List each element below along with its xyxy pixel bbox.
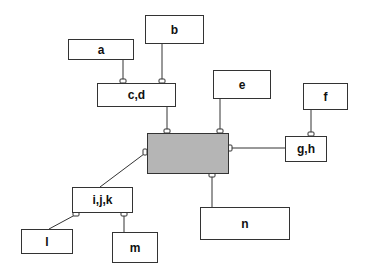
entity-label: m (130, 241, 141, 255)
entity-label: n (241, 217, 248, 231)
entity-cd: c,d (97, 83, 176, 107)
entity-label: e (239, 78, 246, 92)
entity-gh: g,h (285, 136, 327, 162)
entity-label: c,d (128, 88, 145, 102)
entity-label: i,j,k (92, 193, 112, 207)
entity-m: m (112, 232, 158, 263)
entity-n: n (200, 207, 290, 240)
entity-f: f (303, 83, 348, 110)
entity-a: a (68, 39, 134, 60)
entity-l: l (21, 229, 73, 254)
entity-label: l (45, 235, 48, 249)
entity-ijk: i,j,k (72, 187, 133, 213)
entity-label: f (324, 90, 328, 104)
entity-label: g,h (297, 142, 315, 156)
entity-b: b (145, 15, 204, 44)
central-entity (147, 133, 229, 174)
entity-e: e (213, 70, 271, 99)
entity-label: b (171, 23, 178, 37)
entity-label: a (98, 43, 105, 57)
